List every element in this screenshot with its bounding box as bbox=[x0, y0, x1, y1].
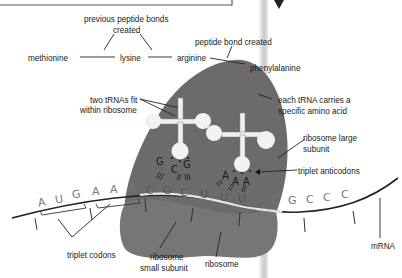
anticodon-right-2: A bbox=[232, 176, 239, 187]
label-previous-bonds-line1: previous peptide bonds bbox=[84, 13, 168, 24]
label-ribosome: ribosome bbox=[205, 258, 239, 269]
mrna-base: A bbox=[92, 185, 100, 198]
label-large-subunit-line1: ribosome large bbox=[303, 132, 357, 143]
label-previous-bonds-line2: created bbox=[113, 24, 140, 35]
label-each-trna-line1: each tRNA carries a bbox=[278, 94, 351, 105]
label-triplet-anticodons: triplet anticodons bbox=[298, 165, 360, 176]
mrna-base: C bbox=[146, 184, 154, 197]
mrna-base: C bbox=[323, 191, 331, 204]
mrna-base: G bbox=[71, 187, 81, 201]
anticodon-right-3: A bbox=[243, 176, 250, 187]
mrna-base: C bbox=[341, 188, 349, 201]
mrna-base: C bbox=[180, 186, 188, 199]
label-large-subunit-line2: subunit bbox=[303, 143, 329, 154]
mrna-base: U bbox=[238, 192, 246, 205]
mrna-base: A bbox=[128, 182, 136, 195]
mrna-base: U bbox=[220, 191, 228, 204]
label-mrna: mRNA bbox=[371, 240, 395, 251]
amino-acid-phenylalanine: phenylalanine bbox=[250, 62, 300, 73]
label-small-subunit-line2: small subunit bbox=[140, 262, 188, 273]
anticodon-left-1: G bbox=[156, 156, 164, 167]
amino-acid-methionine: methionine bbox=[28, 52, 68, 63]
mrna-base: G bbox=[288, 194, 297, 207]
label-two-trnas-line2: within ribosome bbox=[80, 104, 137, 115]
mrna-base: C bbox=[271, 194, 279, 207]
anticodon-right-1: A bbox=[222, 170, 229, 181]
amino-acid-arginine: arginine bbox=[177, 52, 206, 63]
label-each-trna-line2: specific amino acid bbox=[278, 105, 347, 116]
amino-acid-lysine: lysine bbox=[120, 52, 141, 63]
mrna-base: C bbox=[306, 193, 314, 206]
mrna-base: U bbox=[200, 188, 208, 201]
label-triplet-codons: triplet codons bbox=[67, 249, 116, 260]
anticodon-left-3: G bbox=[183, 159, 191, 170]
mrna-base: A bbox=[110, 183, 118, 196]
label-small-subunit-line1: ribosome bbox=[150, 251, 184, 262]
anticodon-left-2: C bbox=[171, 164, 178, 175]
label-peptide-bond: peptide bond created bbox=[195, 36, 272, 47]
down-arrow-icon bbox=[274, 0, 284, 9]
translation-diagram: G C G A A A A U G A A A C G C U U U C G … bbox=[0, 0, 402, 278]
mrna-base: G bbox=[163, 184, 172, 197]
